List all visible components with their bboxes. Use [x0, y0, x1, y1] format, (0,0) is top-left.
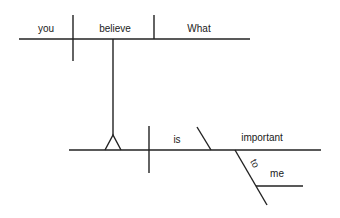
word-to: to	[248, 157, 262, 170]
word-me: me	[270, 168, 284, 179]
word-is: is	[173, 134, 180, 145]
word-important: important	[241, 132, 283, 143]
preposition-slant	[235, 150, 267, 205]
word-what: What	[187, 23, 211, 34]
sentence-diagram: you believe What is important to me	[0, 0, 340, 218]
word-you: you	[38, 23, 54, 34]
diagram-canvas: you believe What is important to me	[0, 0, 340, 218]
complement-slant	[197, 127, 211, 150]
word-believe: believe	[99, 23, 131, 34]
pedestal	[105, 135, 121, 150]
